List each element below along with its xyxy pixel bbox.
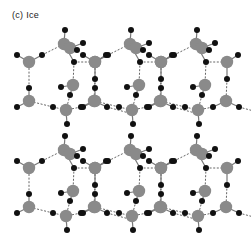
oxygen-atom [133,185,145,197]
oxygen-atom [199,79,211,91]
hydrogen-atom [199,198,205,204]
hydrogen-atom [50,104,56,110]
hydrogen-atom [203,165,209,171]
oxygen-atom [133,79,145,91]
molecular-lattice [0,0,251,251]
hydrogen-atom [158,191,164,197]
oxygen-atom [89,162,101,174]
oxygen-atom [155,162,167,174]
hydrogen-atom [146,52,152,58]
hydrogen-atom [140,47,146,53]
hydrogen-atom [39,158,45,164]
hydrogen-atom [133,198,139,204]
hydrogen-atom [146,210,152,216]
hydrogen-atom [210,104,216,110]
oxygen-atom [155,201,167,213]
hydrogen-atom [64,227,70,233]
hydrogen-atom [130,227,136,233]
oxygen-atom [23,162,35,174]
hydrogen-atom [26,85,32,91]
hydrogen-atom [190,84,196,90]
hydrogen-atom [128,27,134,33]
oxygen-atom [199,185,211,197]
hydrogen-atom [158,85,164,91]
oxygen-atom [89,201,101,213]
hydrogen-atom [92,191,98,197]
hydrogen-atom [212,146,218,152]
oxygen-atom [89,95,101,107]
hydrogen-atom [92,76,98,82]
hydrogen-atom [146,104,152,110]
ice-lattice-diagram: (c) Ice [0,0,251,251]
oxygen-atom [192,210,204,222]
hydrogen-atom [14,52,20,58]
oxygen-atom [220,95,232,107]
hydrogen-atom [80,40,86,46]
hydrogen-atom [14,210,20,216]
hydrogen-atom [67,198,73,204]
hydrogen-atom [62,133,68,139]
hydrogen-atom [236,104,242,110]
hydrogen-atom [92,85,98,91]
oxygen-atom [221,162,233,174]
oxygen-atom [155,56,167,68]
hydrogen-atom [194,27,200,33]
hydrogen-atom [140,153,146,159]
hydrogen-atom [203,59,209,65]
oxygen-atom [64,42,76,54]
hydrogen-atom [224,182,230,188]
hydrogen-atom [133,92,139,98]
hydrogen-atom [116,210,122,216]
hydrogen-atom [74,153,80,159]
oxygen-atom [155,95,167,107]
oxygen-atom [126,210,138,222]
oxygen-atom [89,56,101,68]
hydrogen-atom [64,121,70,127]
hydrogen-atom [80,104,86,110]
hydrogen-atom [171,158,177,164]
hydrogen-atom [196,227,202,233]
hydrogen-atom [92,182,98,188]
hydrogen-atom [50,210,56,216]
hydrogen-atom [105,158,111,164]
hydrogen-atom [158,76,164,82]
hydrogen-atom [206,47,212,53]
hydrogen-atom [80,52,86,58]
hydrogen-atom [130,121,136,127]
hydrogen-atom [212,40,218,46]
hydrogen-atom [124,84,130,90]
hydrogen-atom [74,47,80,53]
hydrogen-atom [170,104,176,110]
oxygen-atom [64,148,76,160]
hydrogen-atom [124,190,130,196]
hydrogen-atom [146,40,152,46]
hydrogen-atom [80,210,86,216]
hydrogen-atom [71,165,77,171]
hydrogen-atom [116,104,122,110]
hydrogen-atom [62,27,68,33]
oxygen-atom [196,42,208,54]
hydrogen-atom [210,210,216,216]
oxygen-atom [192,104,204,116]
hydrogen-atom [58,84,64,90]
hydrogen-atom [171,52,177,58]
oxygen-atom [220,201,232,213]
hydrogen-atom [14,158,20,164]
hydrogen-atom [80,158,86,164]
hydrogen-atom [14,104,20,110]
oxygen-atom [196,148,208,160]
hydrogen-atom [206,153,212,159]
oxygen-atom [130,42,142,54]
oxygen-atom [126,104,138,116]
hydrogen-atom [235,52,241,58]
oxygen-atom [67,185,79,197]
hydrogen-atom [137,165,143,171]
hydrogen-atom [67,92,73,98]
oxygen-atom [130,148,142,160]
hydrogen-atom [182,210,188,216]
hydrogen-atom [170,210,176,216]
oxygen-atom [221,56,233,68]
hydrogen-atom [104,210,110,216]
hydrogen-atoms [14,27,242,233]
hydrogen-atom [80,146,86,152]
